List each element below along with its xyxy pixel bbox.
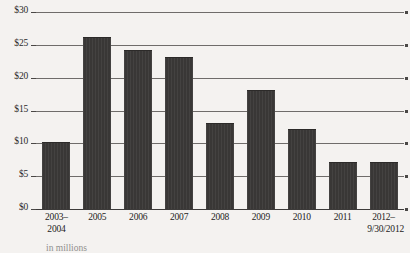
- gridline: [36, 209, 404, 210]
- bar[interactable]: [370, 162, 398, 209]
- bar[interactable]: [329, 162, 357, 209]
- x-axis-tick-label: 2011: [322, 212, 363, 224]
- bar[interactable]: [288, 129, 316, 209]
- bar[interactable]: [42, 142, 70, 209]
- bar-series: [36, 12, 404, 209]
- x-axis-tick-label: 2006: [118, 212, 159, 224]
- x-axis-tick-label: 2012–9/30/2012: [363, 212, 404, 235]
- y-axis-tick-label: $5: [19, 169, 28, 179]
- axis-tick-icon: [405, 11, 408, 14]
- axis-tick-icon: [405, 44, 408, 47]
- bar[interactable]: [247, 90, 275, 209]
- y-axis-tick-label: $20: [14, 71, 28, 81]
- y-axis-tick-label: $30: [14, 5, 28, 15]
- x-axis-tick-label: 2010: [281, 212, 322, 224]
- axis-tick-icon: [405, 110, 408, 113]
- plot-area: $0$5$10$15$20$25$30: [36, 12, 404, 209]
- x-axis-tick-label: 2009: [240, 212, 281, 224]
- y-axis-tick-label: $15: [14, 104, 28, 114]
- chart-caption: in millions: [46, 243, 87, 253]
- axis-tick-icon: [405, 175, 408, 178]
- y-axis-tick-label: $25: [14, 38, 28, 48]
- bar[interactable]: [124, 50, 152, 209]
- bar[interactable]: [165, 57, 193, 209]
- y-axis-tick-label: $10: [14, 136, 28, 146]
- x-axis-tick-label: 2008: [200, 212, 241, 224]
- bar[interactable]: [83, 37, 111, 209]
- x-axis-tick-label: 2005: [77, 212, 118, 224]
- axis-tick-icon: [405, 208, 408, 211]
- y-tick-mark-icon: [31, 209, 36, 210]
- axis-tick-icon: [405, 142, 408, 145]
- y-axis-tick-label: $0: [19, 202, 28, 212]
- x-axis-tick-label: 2007: [159, 212, 200, 224]
- x-axis-labels: 2003–20042005200620072008200920102011201…: [36, 212, 404, 249]
- axis-tick-icon: [405, 77, 408, 80]
- x-axis-tick-label: 2003–2004: [36, 212, 77, 235]
- bar[interactable]: [206, 123, 234, 209]
